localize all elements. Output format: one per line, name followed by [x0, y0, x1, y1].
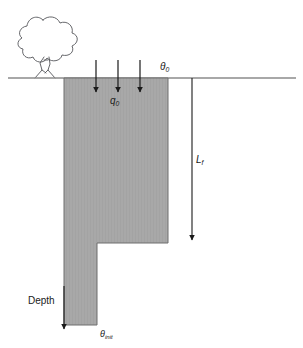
label-theta-0: θ0	[160, 62, 169, 72]
wetted-soil-block	[64, 78, 168, 325]
label-depth: Depth	[28, 296, 55, 306]
label-l-f: Lf	[196, 155, 203, 165]
label-q-0: q0	[110, 96, 119, 106]
label-l-f-symbol: L	[196, 154, 202, 165]
label-theta-init: θinit	[100, 330, 113, 339]
label-theta-init-subscript: init	[105, 333, 113, 340]
tree-icon	[18, 17, 77, 78]
label-q-0-symbol: q	[110, 95, 116, 106]
label-l-f-subscript: f	[202, 159, 204, 166]
label-q-0-subscript: 0	[116, 100, 120, 107]
label-theta-0-subscript: 0	[165, 66, 169, 73]
